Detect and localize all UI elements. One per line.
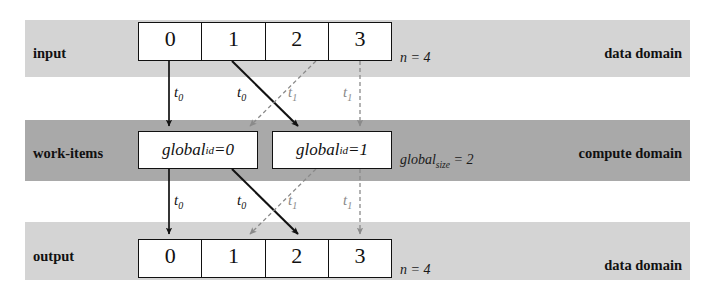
input-size-label: n = 4 [400, 50, 430, 66]
figure-canvas: input 0 1 2 3 n = 4 data domain t0 t0 t1… [0, 0, 713, 300]
edge-lower-item1-to-cell1 [250, 169, 316, 234]
domain-label-input: data domain [604, 45, 682, 62]
thread-label-lower-1: t0 [237, 192, 246, 211]
global-size-eq: = [450, 152, 466, 167]
output-size-prefix: n [400, 262, 407, 277]
global-size-sub: size [436, 160, 450, 170]
global-size-label: globalsize = 2 [400, 152, 473, 170]
output-size-label: n = 4 [400, 262, 430, 278]
thread-label-lower-3: t1 [343, 192, 352, 211]
domain-label-compute: compute domain [578, 145, 682, 162]
output-cell-2[interactable]: 2 [266, 240, 329, 277]
work-item-1-eq: = [348, 140, 359, 160]
input-cell-0[interactable]: 0 [139, 23, 202, 60]
global-size-prefix: global [400, 152, 436, 167]
work-item-0-sub: id [205, 144, 214, 156]
domain-label-output: data domain [604, 257, 682, 274]
thread-label-lower-0: t0 [174, 192, 183, 211]
input-cell-3[interactable]: 3 [329, 23, 391, 60]
thread-label-upper-3: t1 [343, 84, 352, 103]
output-size-value: 4 [423, 262, 430, 277]
thread-label-upper-1-sub: 0 [241, 92, 246, 103]
work-item-1-sub: id [339, 144, 348, 156]
output-array: 0 1 2 3 [138, 239, 392, 278]
input-cell-1[interactable]: 1 [202, 23, 265, 60]
work-item-0-name: global [162, 140, 205, 160]
work-item-0-eq: = [214, 140, 225, 160]
row-label-work-items: work-items [33, 145, 103, 162]
thread-label-upper-2: t1 [288, 84, 297, 103]
global-size-value: 2 [466, 152, 473, 167]
output-cell-0[interactable]: 0 [139, 240, 202, 277]
thread-label-lower-2-sub: 1 [292, 200, 297, 211]
thread-label-lower-2: t1 [288, 192, 297, 211]
thread-label-upper-0: t0 [174, 84, 183, 103]
input-size-prefix: n [400, 50, 407, 65]
thread-label-upper-3-sub: 1 [347, 92, 352, 103]
thread-label-lower-3-sub: 1 [347, 200, 352, 211]
row-label-input: input [33, 45, 66, 62]
thread-label-upper-2-sub: 1 [292, 92, 297, 103]
input-array: 0 1 2 3 [138, 22, 392, 61]
output-cell-3[interactable]: 3 [329, 240, 391, 277]
work-item-0[interactable]: globalid = 0 [138, 131, 258, 169]
output-cell-1[interactable]: 1 [202, 240, 265, 277]
row-label-output: output [33, 248, 74, 265]
thread-label-lower-1-sub: 0 [241, 200, 246, 211]
output-size-eq: = [407, 262, 423, 277]
thread-label-upper-0-sub: 0 [178, 92, 183, 103]
work-item-1[interactable]: globalid = 1 [272, 131, 392, 169]
input-size-eq: = [407, 50, 423, 65]
work-item-1-name: global [296, 140, 339, 160]
input-size-value: 4 [423, 50, 430, 65]
thread-label-upper-1: t0 [237, 84, 246, 103]
input-cell-2[interactable]: 2 [266, 23, 329, 60]
thread-label-lower-0-sub: 0 [178, 200, 183, 211]
work-item-1-value: 1 [360, 140, 369, 160]
edge-upper-cell2-to-item0 [250, 61, 316, 126]
work-item-0-value: 0 [226, 140, 235, 160]
